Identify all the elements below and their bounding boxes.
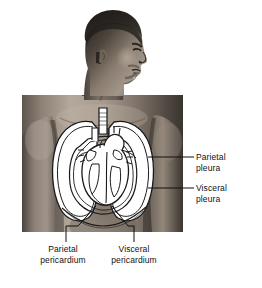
label-parietal-pleura: Parietal pleura — [196, 152, 226, 173]
label-parietal-pleura-line2: pleura — [196, 163, 226, 174]
label-visceral-pericardium-line2: pericardium — [100, 255, 168, 266]
label-visceral-pleura-line2: pleura — [196, 194, 227, 205]
interventricular-septum — [106, 152, 107, 203]
trachea — [99, 108, 107, 134]
label-parietal-pericardium: Parietal pericardium — [29, 244, 97, 265]
label-visceral-pleura-line1: Visceral — [196, 183, 227, 194]
label-parietal-pericardium-line2: pericardium — [29, 255, 97, 266]
superior-vena-cava — [92, 128, 98, 142]
label-parietal-pleura-line1: Parietal — [196, 152, 226, 163]
label-parietal-pericardium-line1: Parietal — [29, 244, 97, 255]
anatomy-figure: Parietal pleura Visceral pleura Parietal… — [0, 0, 262, 288]
head-profile — [85, 10, 147, 96]
label-visceral-pleura: Visceral pleura — [196, 183, 227, 204]
label-visceral-pericardium-line1: Visceral — [100, 244, 168, 255]
label-visceral-pericardium: Visceral pericardium — [100, 244, 168, 265]
